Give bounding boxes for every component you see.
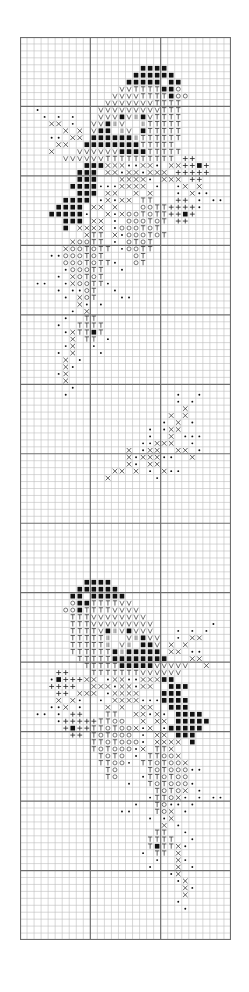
plus-stitch-icon: [70, 684, 75, 689]
cross-stitch-icon: [92, 684, 97, 689]
plus-stitch-icon: [63, 684, 68, 689]
circle-stitch-icon: [169, 782, 173, 786]
cross-stitch-icon: [56, 142, 61, 147]
cross-stitch-icon: [169, 413, 174, 418]
cross-stitch-icon: [70, 351, 75, 356]
t-stitch-icon: [113, 663, 117, 668]
plus-stitch-icon: [190, 177, 195, 182]
plus-stitch-icon: [63, 691, 68, 696]
cross-stitch-icon: [169, 747, 174, 752]
dot-stitch-icon: [135, 165, 137, 167]
black-square-stitch-icon: [106, 629, 111, 634]
dot-stitch-icon: [65, 269, 67, 271]
black-square-stitch-icon: [169, 705, 174, 710]
dot-stitch-icon: [44, 116, 46, 118]
v-stitch-icon: [162, 670, 166, 675]
dot-stitch-icon: [191, 401, 193, 403]
dot-stitch-icon: [37, 109, 39, 111]
t-stitch-icon: [92, 316, 96, 321]
cross-stitch-icon: [141, 719, 146, 724]
t-stitch-icon: [92, 608, 96, 613]
circle-stitch-icon: [113, 719, 117, 723]
black-square-stitch-icon: [162, 691, 167, 696]
dot-stitch-icon: [177, 880, 179, 882]
t-stitch-icon: [155, 774, 159, 779]
v-stitch-icon: [141, 629, 145, 634]
v-stitch-icon: [134, 108, 138, 113]
cross-stitch-icon: [120, 691, 125, 696]
black-square-stitch-icon: [113, 142, 118, 147]
cross-stitch-icon: [85, 226, 90, 231]
cross-stitch-icon: [183, 406, 188, 411]
black-square-stitch-icon: [155, 656, 160, 661]
dot-stitch-icon: [58, 116, 60, 118]
plus-stitch-icon: [169, 212, 174, 217]
t-stitch-icon: [99, 247, 103, 252]
v-stitch-icon: [148, 622, 152, 627]
cross-stitch-icon: [134, 191, 139, 196]
v-stitch-icon: [120, 87, 124, 92]
cross-stitch-icon: [77, 691, 82, 696]
circle-stitch-icon: [120, 761, 124, 765]
t-stitch-icon: [148, 754, 152, 759]
t-stitch-icon: [99, 754, 103, 759]
cross-stitch-icon: [148, 191, 153, 196]
black-square-stitch-icon: [63, 198, 68, 203]
t-stitch-icon: [155, 149, 159, 154]
t-stitch-icon: [162, 795, 166, 800]
cross-stitch-icon: [127, 184, 132, 189]
v-stitch-icon: [148, 101, 152, 106]
black-square-stitch-icon: [162, 656, 167, 661]
black-square-stitch-icon: [169, 698, 174, 703]
cross-stitch-icon: [155, 455, 160, 460]
cross-stitch-icon: [162, 733, 167, 738]
circle-stitch-icon: [85, 282, 89, 286]
dot-stitch-icon: [177, 901, 179, 903]
dot-stitch-icon: [65, 394, 67, 396]
dot-stitch-icon: [142, 727, 144, 729]
circle-stitch-icon: [127, 212, 131, 216]
t-stitch-icon: [92, 656, 96, 661]
t-stitch-icon: [148, 774, 152, 779]
t-stitch-icon: [148, 128, 152, 133]
v-stitch-icon: [148, 115, 152, 120]
cross-stitch-icon: [56, 122, 61, 127]
circle-stitch-icon: [134, 254, 138, 258]
black-square-stitch-icon: [70, 594, 75, 599]
v-stitch-icon: [106, 115, 110, 120]
t-stitch-icon: [141, 198, 145, 203]
t-stitch-icon: [176, 108, 180, 113]
dot-stitch-icon: [107, 283, 109, 285]
v-stitch-icon: [106, 149, 110, 154]
plus-stitch-icon: [176, 170, 181, 175]
plus-stitch-icon: [183, 156, 188, 161]
dot-stitch-icon: [128, 679, 130, 681]
circle-stitch-icon: [99, 733, 103, 737]
cross-stitch-icon: [70, 337, 75, 342]
v-stitch-icon: [134, 629, 138, 634]
dot-stitch-icon: [156, 699, 158, 701]
black-square-stitch-icon: [106, 580, 111, 585]
cross-stitch-icon: [56, 698, 61, 703]
cross-stitch-icon: [176, 740, 181, 745]
black-square-stitch-icon: [77, 191, 82, 196]
dot-stitch-icon: [170, 804, 172, 806]
circle-stitch-icon: [162, 809, 166, 813]
cross-stitch-icon: [141, 455, 146, 460]
t-stitch-icon: [141, 212, 145, 217]
cross-stitch-icon: [141, 684, 146, 689]
t-stitch-icon: [155, 809, 159, 814]
black-square-stitch-icon: [176, 691, 181, 696]
black-square-stitch-icon: [155, 649, 160, 654]
t-stitch-icon: [106, 247, 110, 252]
t-stitch-icon: [78, 330, 82, 335]
t-stitch-icon: [85, 260, 89, 265]
cross-stitch-icon: [77, 128, 82, 133]
t-stitch-icon: [113, 670, 117, 675]
plus-stitch-icon: [183, 219, 188, 224]
t-stitch-icon: [169, 156, 173, 161]
dot-stitch-icon: [72, 387, 74, 389]
v-stitch-icon: [106, 101, 110, 106]
black-square-stitch-icon: [106, 142, 111, 147]
black-square-stitch-icon: [197, 719, 202, 724]
